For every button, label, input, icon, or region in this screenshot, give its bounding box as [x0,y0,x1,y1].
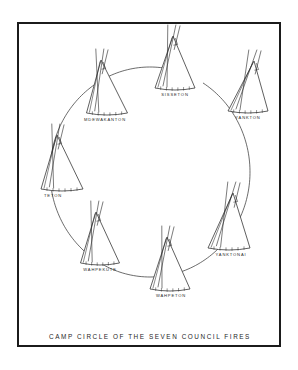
figure-root: SISSETONYANKTONYANKTONAIWAHPETONWAHPEKUT… [0,0,298,370]
figure-border-frame [17,22,281,347]
